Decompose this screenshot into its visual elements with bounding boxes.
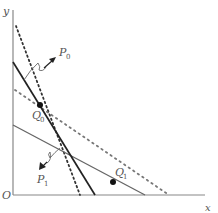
economics-diagram: y O x P 0 P 1 Q 0 Q 1 [0, 0, 218, 213]
solid-line-gray [13, 125, 145, 195]
q1-label-sub: 1 [123, 173, 127, 181]
p1-squiggle [47, 148, 60, 163]
point-q1 [110, 179, 116, 185]
dotted-line-dense [16, 26, 80, 195]
y-axis-label: y [2, 5, 10, 18]
p1-label-sub: 1 [44, 180, 48, 188]
x-axis-label: x [205, 202, 211, 213]
q0-label-sub: 0 [40, 116, 44, 124]
p0-label-sub: 0 [66, 53, 70, 61]
solid-line-dark [13, 62, 95, 195]
p1-arrow-head-icon [39, 162, 46, 170]
point-q0 [37, 102, 43, 108]
origin-label: O [2, 189, 11, 202]
